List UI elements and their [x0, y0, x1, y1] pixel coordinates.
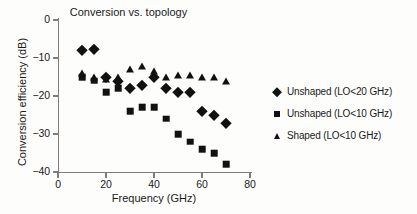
x-tick-label: 80 [235, 178, 265, 190]
data-point-triangle [222, 77, 230, 84]
chart-figure: Conversion vs. topology 0−10−20−30−40020… [0, 0, 417, 214]
legend-item: Unshaped (LO<10 GHz) [272, 108, 392, 119]
data-point-triangle [186, 72, 194, 79]
data-point-square [127, 108, 134, 115]
diamond-marker-icon [272, 87, 281, 96]
chart-legend: Unshaped (LO<20 GHz)Unshaped (LO<10 GHz)… [272, 86, 392, 141]
data-point-triangle [162, 74, 170, 81]
legend-item-label: Shaped (LO<10 GHz) [287, 130, 381, 141]
data-point-triangle [138, 62, 146, 69]
data-point-triangle [114, 74, 122, 81]
data-point-square [139, 104, 146, 111]
data-point-triangle [210, 74, 218, 81]
data-point-triangle [90, 74, 98, 81]
x-axis-label: Frequency (GHz) [58, 192, 250, 204]
data-point-triangle [126, 66, 134, 73]
legend-item: Shaped (LO<10 GHz) [272, 130, 392, 141]
x-tick-label: 20 [91, 178, 121, 190]
x-tick-label: 0 [43, 178, 73, 190]
chart-title: Conversion vs. topology [0, 6, 417, 18]
x-tick-label: 40 [139, 178, 169, 190]
data-point-triangle [174, 72, 182, 79]
triangle-marker-icon [272, 131, 281, 140]
square-marker-icon [272, 109, 281, 118]
data-point-triangle [78, 70, 86, 77]
data-point-triangle [198, 74, 206, 81]
data-point-square [199, 146, 206, 153]
data-point-triangle [150, 68, 158, 75]
data-point-square [223, 161, 230, 168]
data-point-square [211, 150, 218, 157]
y-axis-label: Conversion efficiency (dB) [16, 22, 28, 182]
data-point-triangle [102, 75, 110, 82]
legend-item-label: Unshaped (LO<20 GHz) [287, 86, 392, 97]
legend-item-label: Unshaped (LO<10 GHz) [287, 108, 392, 119]
data-point-square [175, 131, 182, 138]
x-tick-label: 60 [187, 178, 217, 190]
data-point-square [163, 116, 170, 123]
data-point-square [115, 85, 122, 92]
data-point-square [151, 104, 158, 111]
legend-item: Unshaped (LO<20 GHz) [272, 86, 392, 97]
data-point-square [187, 138, 194, 145]
plot-area [58, 20, 250, 172]
data-point-square [103, 89, 110, 96]
